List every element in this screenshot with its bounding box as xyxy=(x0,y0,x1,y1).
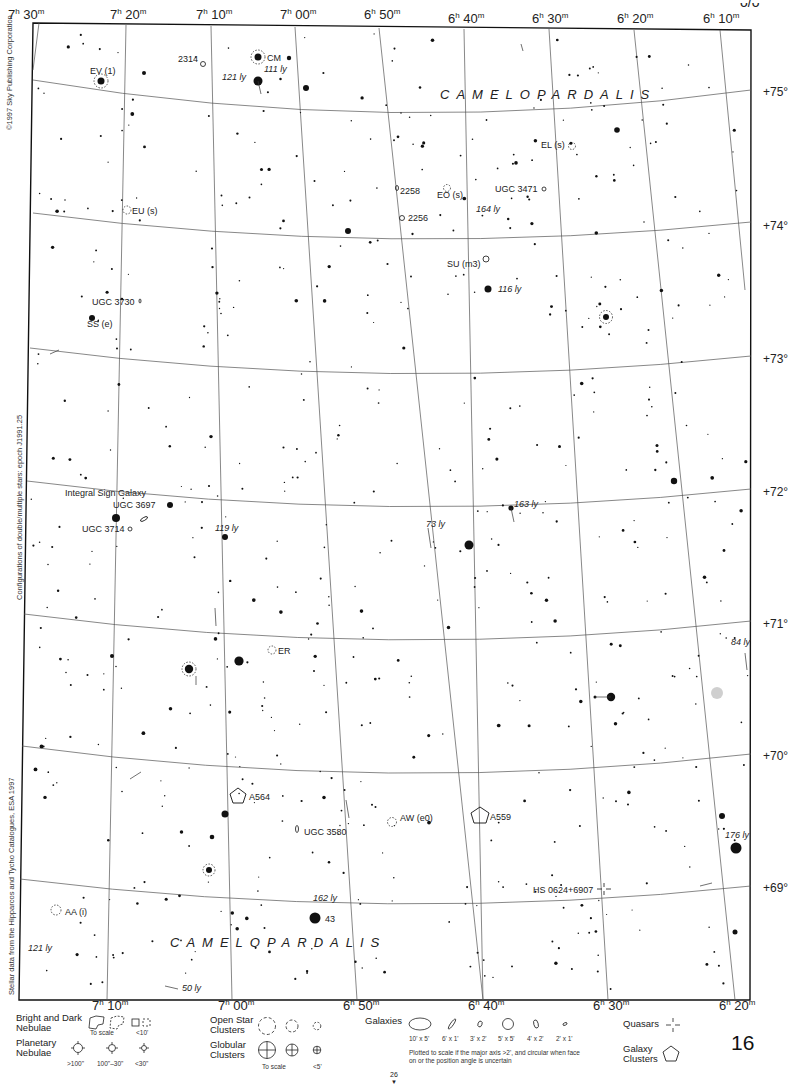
galaxy-cluster-label: A564 xyxy=(249,792,270,802)
ra-label: 6h 30m xyxy=(532,11,569,26)
ra-label: 6h 20m xyxy=(617,11,654,26)
galaxy-label: UGC 3471 xyxy=(495,184,538,194)
proper-motion-vectors xyxy=(50,44,747,989)
variable-ring-icon xyxy=(123,206,131,214)
globular-to-scale: To scale xyxy=(262,1062,286,1072)
galaxy-label: UGC 3714 xyxy=(82,524,125,534)
faint-star-field xyxy=(31,33,749,990)
planetary-symbols-icon xyxy=(68,1040,158,1058)
ra-grid xyxy=(33,23,745,1000)
star-icon xyxy=(287,56,291,60)
galaxy-icon xyxy=(296,826,299,833)
star-icon xyxy=(110,654,114,658)
dec-label: +74° xyxy=(763,219,788,233)
planetary-size: <30" xyxy=(135,1059,148,1069)
variable-star-label: AW (e0) xyxy=(400,813,433,823)
planetary-size: >100" xyxy=(67,1059,84,1069)
galaxy-markers xyxy=(128,62,546,833)
galaxy-icon xyxy=(140,516,148,523)
galaxy-icon xyxy=(483,256,489,262)
dec-label: +73° xyxy=(763,352,788,366)
legend-globular-title: Globular Clusters xyxy=(210,1040,260,1060)
distance-label: 163 ly xyxy=(514,499,539,509)
variable-star-label: EV (1) xyxy=(90,66,116,76)
galaxy-icon xyxy=(201,62,206,67)
pentagon-icon xyxy=(662,1045,680,1063)
legend-quasars-title: Quasars xyxy=(623,1019,659,1029)
galaxy-label: 2256 xyxy=(408,213,428,223)
ra-label: 6h 30m xyxy=(593,998,630,1013)
distance-label: 116 ly xyxy=(498,284,522,294)
quasar-icon xyxy=(665,1017,681,1033)
variable-star-label: EU (s) xyxy=(132,206,158,216)
ra-label: 7h 00m xyxy=(218,998,255,1013)
galaxy-label: UGC 3697 xyxy=(113,500,156,510)
variable-star-label: EO (s) xyxy=(437,190,463,200)
star-icon xyxy=(185,665,193,673)
chart-border xyxy=(19,23,751,1000)
nebulae-to-scale: To scale xyxy=(90,1028,114,1038)
distance-label: 121 ly xyxy=(222,72,247,82)
star-icon xyxy=(98,78,105,85)
legend-galaxy-clusters-title: Galaxy Clusters xyxy=(623,1044,663,1064)
smudge xyxy=(711,687,723,699)
galaxy-size: 6' x 1' xyxy=(442,1034,459,1044)
legend-nebulae-title: Bright and Dark Nebulae xyxy=(16,1013,86,1033)
epoch-note: Configurations of double/multiple stars:… xyxy=(15,415,24,600)
ra-label: 6h 40m xyxy=(448,11,485,26)
dec-labels: +75° +74° +73° +72° +71° +70° +69° xyxy=(763,85,788,895)
galaxy-size: 3' x 2' xyxy=(470,1034,487,1044)
star-icon xyxy=(303,85,309,91)
galaxy-label: 2258 xyxy=(400,186,420,196)
star-icon xyxy=(603,314,609,320)
adjacent-page-ref[interactable]: 26▼ xyxy=(390,1071,398,1085)
legend-open-clusters-title: Open Star Clusters xyxy=(210,1015,260,1035)
star-icon xyxy=(731,843,742,854)
star-icon xyxy=(719,813,725,819)
ra-label: 7h 10m xyxy=(92,998,129,1013)
down-arrow-icon: ▼ xyxy=(391,1079,397,1085)
galaxy-icon xyxy=(128,527,132,531)
variable-star-label: AA (i) xyxy=(65,907,87,917)
dec-label: +75° xyxy=(763,85,788,99)
ra-label: 6h 50m xyxy=(343,998,380,1013)
ra-label: 7h 00m xyxy=(280,7,317,22)
adjacent-page-number: 26 xyxy=(390,1071,398,1078)
distance-label: 50 ly xyxy=(182,983,202,993)
ra-label: 6h 40m xyxy=(468,998,505,1013)
galaxy-label: UGC 3580 xyxy=(304,827,347,837)
star-icon xyxy=(234,656,243,665)
galaxy-size: 10' x 5' xyxy=(409,1034,429,1044)
ra-label: 7h 20m xyxy=(110,7,147,22)
galaxy-symbols-icon xyxy=(408,1015,578,1033)
galaxy-plot-note: Plotted to scale if the major axis >2', … xyxy=(409,1049,584,1065)
distance-label: 162 ly xyxy=(313,893,338,903)
star-icon xyxy=(310,913,321,924)
globular-small: <5' xyxy=(313,1062,322,1072)
dec-label: +72° xyxy=(763,485,788,499)
star-icon xyxy=(112,514,120,522)
variable-ring-icon xyxy=(51,905,61,915)
quasar-marker xyxy=(597,883,611,895)
pentagon-icon xyxy=(471,807,489,823)
legend-galaxies-title: Galaxies xyxy=(365,1016,402,1026)
ra-label: 7h 10m xyxy=(196,7,233,22)
page-number: 16 xyxy=(731,1031,754,1055)
star-icon xyxy=(142,71,146,75)
open-cluster-symbols-icon xyxy=(257,1015,327,1037)
constellation-name: CAMELOPARDALIS xyxy=(440,87,656,102)
distance-label: 119 ly xyxy=(215,523,239,533)
dec-label: +69° xyxy=(763,881,788,895)
galaxy-icon xyxy=(139,299,141,303)
star-icon xyxy=(255,54,262,61)
variable-star-label: EL (s) xyxy=(541,140,565,150)
star-icon xyxy=(614,127,620,133)
star-icon xyxy=(222,811,229,818)
constellation-name: CAMELOPARDALIS xyxy=(170,935,386,950)
ra-label: 6h 20m xyxy=(719,998,756,1013)
galaxy-size: 4' x 2' xyxy=(527,1034,544,1044)
dec-label: +70° xyxy=(763,749,788,763)
quasar-label: HS 0624+6907 xyxy=(533,885,593,895)
ra-label: 6h 50m xyxy=(364,7,401,22)
variable-ring-icon xyxy=(268,646,276,654)
